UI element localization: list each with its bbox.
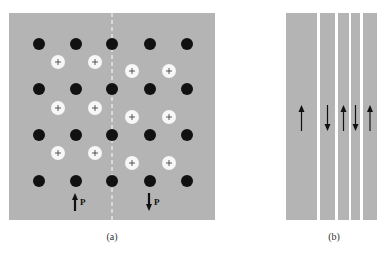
figure-canvas: PP [0, 0, 388, 253]
anion-dot [70, 129, 82, 141]
domain-strip [286, 13, 317, 220]
anion-dot [106, 175, 118, 187]
ferroelectric-domains-figure: PP (a) (b) [0, 0, 388, 253]
anion-dot [181, 175, 193, 187]
panel-b-domain-strips [286, 13, 377, 220]
panel-a-domain-wall: PP [9, 13, 215, 220]
anion-dot [70, 175, 82, 187]
anion-dot [181, 83, 193, 95]
anion-dot [70, 38, 82, 50]
cation-ion [88, 146, 102, 160]
cation-ion [51, 55, 65, 69]
domain-strip [363, 13, 377, 220]
cation-ion [88, 101, 102, 115]
anion-dot [33, 129, 45, 141]
cation-ion [88, 55, 102, 69]
domain-strip [320, 13, 335, 220]
cation-ion [162, 64, 176, 78]
anion-dot [181, 129, 193, 141]
anion-dot [106, 83, 118, 95]
polarization-label: P [154, 197, 160, 207]
cation-ion [125, 110, 139, 124]
anion-dot [106, 38, 118, 50]
domain-strip [351, 13, 360, 220]
anion-dot [33, 175, 45, 187]
anion-dot [70, 83, 82, 95]
anion-dot [181, 38, 193, 50]
anion-dot [33, 83, 45, 95]
anion-dot [144, 175, 156, 187]
anion-dot [144, 38, 156, 50]
cation-ion [51, 146, 65, 160]
cation-ion [162, 156, 176, 170]
anion-dot [106, 129, 118, 141]
cation-ion [162, 110, 176, 124]
anion-dot [144, 129, 156, 141]
anion-dot [33, 38, 45, 50]
polarization-label: P [80, 197, 86, 207]
cation-ion [125, 156, 139, 170]
cation-ion [125, 64, 139, 78]
anion-dot [144, 83, 156, 95]
panel-a-caption: (a) [106, 231, 117, 242]
panel-b-caption: (b) [328, 231, 340, 242]
domain-strip [338, 13, 349, 220]
cation-ion [51, 101, 65, 115]
